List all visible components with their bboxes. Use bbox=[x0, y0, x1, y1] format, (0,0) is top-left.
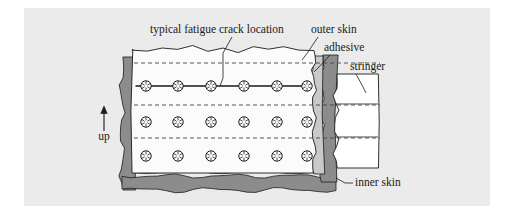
rivet bbox=[272, 151, 282, 161]
rivet bbox=[239, 117, 249, 127]
rivet bbox=[173, 117, 183, 127]
rivet bbox=[302, 151, 312, 161]
rivet bbox=[206, 151, 216, 161]
label-inner-skin: inner skin bbox=[355, 176, 401, 188]
rivet bbox=[272, 81, 282, 91]
label-crack-location: typical fatigue crack location bbox=[150, 23, 284, 36]
fatigue-crack-diagram: typical fatigue crack location outer ski… bbox=[0, 0, 513, 222]
rivet bbox=[141, 117, 151, 127]
rivet bbox=[173, 81, 183, 91]
rivet bbox=[206, 117, 216, 127]
rivet bbox=[302, 81, 312, 91]
stringer-body bbox=[333, 74, 379, 168]
label-up-direction: up bbox=[98, 130, 110, 143]
rivet bbox=[141, 81, 151, 91]
label-outer-skin: outer skin bbox=[311, 23, 357, 35]
label-adhesive: adhesive bbox=[324, 41, 364, 53]
rivet bbox=[302, 117, 312, 127]
rivet bbox=[173, 151, 183, 161]
rivet bbox=[141, 151, 151, 161]
outer-skin-shape bbox=[131, 46, 317, 173]
rivet bbox=[272, 117, 282, 127]
figure-container: typical fatigue crack location outer ski… bbox=[0, 0, 513, 222]
label-stringer: stringer bbox=[350, 60, 385, 73]
rivet bbox=[206, 81, 216, 91]
stringer-shape bbox=[333, 74, 379, 168]
outer-skin-sheet bbox=[131, 46, 317, 173]
rivet bbox=[239, 81, 249, 91]
rivet bbox=[239, 151, 249, 161]
